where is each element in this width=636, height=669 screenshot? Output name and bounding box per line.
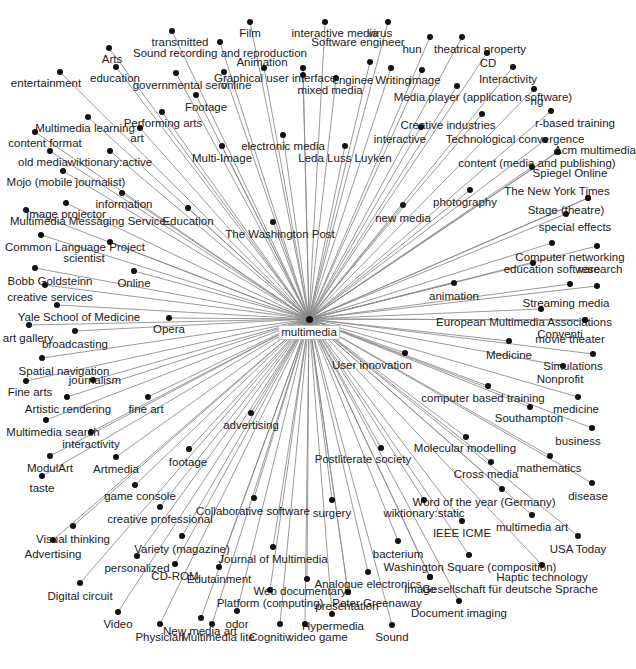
- node-dot[interactable]: [57, 69, 63, 75]
- node-label[interactable]: Online: [117, 277, 150, 290]
- node-label[interactable]: Video: [103, 618, 132, 631]
- node-dot[interactable]: [247, 19, 253, 25]
- node-dot[interactable]: [547, 453, 553, 459]
- node-dot[interactable]: [198, 615, 204, 621]
- node-dot[interactable]: [304, 576, 310, 582]
- node-label[interactable]: creative services: [7, 291, 93, 304]
- node-label[interactable]: surgery: [313, 507, 351, 520]
- node-label[interactable]: Postliterate society: [315, 453, 412, 466]
- node-dot[interactable]: [219, 143, 225, 149]
- node-label[interactable]: bacterium: [373, 548, 424, 561]
- node-label[interactable]: Multimedia Messaging Service: [10, 215, 166, 228]
- node-label[interactable]: wiktionary:static: [383, 507, 464, 520]
- node-dot[interactable]: [157, 504, 163, 510]
- node-dot[interactable]: [589, 425, 595, 431]
- node-dot[interactable]: [367, 59, 373, 65]
- node-dot[interactable]: [131, 268, 137, 274]
- node-label[interactable]: Journal of Multimedia: [218, 553, 327, 566]
- node-dot[interactable]: [157, 621, 163, 627]
- node-dot[interactable]: [234, 608, 240, 614]
- node-label[interactable]: theatrical property: [434, 43, 526, 56]
- node-dot[interactable]: [166, 315, 172, 321]
- node-dot[interactable]: [575, 533, 581, 539]
- node-dot[interactable]: [421, 497, 427, 503]
- node-dot[interactable]: [402, 350, 408, 356]
- node-dot[interactable]: [451, 280, 457, 286]
- node-label[interactable]: Mojo (mobile journalist): [7, 176, 126, 189]
- node-dot[interactable]: [185, 205, 191, 211]
- node-dot[interactable]: [400, 202, 406, 208]
- node-label[interactable]: disease: [568, 490, 608, 503]
- node-dot[interactable]: [594, 283, 600, 289]
- node-label[interactable]: Simulations: [543, 360, 602, 373]
- node-label[interactable]: IEEE ICME: [433, 527, 491, 540]
- node-label[interactable]: mathematics: [516, 462, 581, 475]
- node-dot[interactable]: [77, 580, 83, 586]
- node-dot[interactable]: [88, 429, 94, 435]
- node-label[interactable]: Film: [239, 27, 261, 40]
- node-label[interactable]: new media: [375, 212, 431, 225]
- node-dot[interactable]: [585, 195, 591, 201]
- node-dot[interactable]: [209, 621, 215, 627]
- node-label[interactable]: Medicine: [486, 349, 532, 362]
- node-label[interactable]: Cognitiv: [249, 631, 291, 644]
- node-dot[interactable]: [538, 306, 544, 312]
- node-dot[interactable]: [345, 589, 351, 595]
- node-dot[interactable]: [267, 587, 273, 593]
- node-dot[interactable]: [466, 552, 472, 558]
- node-dot[interactable]: [63, 200, 69, 206]
- node-dot[interactable]: [389, 622, 395, 628]
- node-dot[interactable]: [594, 243, 600, 249]
- node-dot[interactable]: [70, 523, 76, 529]
- node-label[interactable]: Visual thinking: [36, 533, 110, 546]
- node-label[interactable]: fine art: [128, 403, 163, 416]
- node-label[interactable]: special effects: [539, 221, 612, 234]
- node-label[interactable]: Creative industries: [400, 119, 495, 132]
- node-label[interactable]: scientist: [63, 252, 105, 265]
- node-dot[interactable]: [60, 168, 66, 174]
- node-dot[interactable]: [173, 70, 179, 76]
- node-label[interactable]: wiktionary:active: [68, 156, 152, 169]
- node-dot[interactable]: [567, 281, 573, 287]
- node-dot[interactable]: [54, 302, 60, 308]
- node-label[interactable]: Sound: [375, 631, 408, 644]
- node-dot[interactable]: [216, 564, 222, 570]
- node-label[interactable]: Collaborative software: [196, 505, 310, 518]
- node-dot[interactable]: [23, 378, 29, 384]
- node-dot[interactable]: [479, 111, 485, 117]
- node-dot[interactable]: [270, 219, 276, 225]
- node-label[interactable]: education software: [504, 263, 601, 276]
- node-label[interactable]: Animation: [236, 56, 287, 69]
- node-dot[interactable]: [418, 124, 424, 130]
- node-dot[interactable]: [427, 34, 433, 40]
- node-label[interactable]: ng: [531, 95, 544, 108]
- node-dot[interactable]: [43, 417, 49, 423]
- node-label[interactable]: interactivity: [62, 438, 120, 451]
- node-dot[interactable]: [589, 480, 595, 486]
- node-label[interactable]: Bobb Goldsteinn: [7, 275, 92, 288]
- node-dot[interactable]: [26, 322, 32, 328]
- node-dot[interactable]: [38, 232, 44, 238]
- node-dot[interactable]: [113, 454, 119, 460]
- node-label[interactable]: Footage: [185, 101, 227, 114]
- node-dot[interactable]: [548, 108, 554, 114]
- node-dot[interactable]: [419, 67, 425, 73]
- node-label[interactable]: Gesellschaft für deutsche Sprache: [422, 583, 598, 596]
- node-label[interactable]: computer based training: [421, 392, 544, 405]
- node-label[interactable]: old media: [18, 156, 68, 169]
- node-label[interactable]: Interactivity: [479, 73, 537, 86]
- node-label[interactable]: Digital circuit: [47, 590, 112, 603]
- node-dot[interactable]: [248, 410, 254, 416]
- node-dot[interactable]: [106, 45, 112, 51]
- node-dot[interactable]: [427, 574, 433, 580]
- node-dot[interactable]: [47, 453, 53, 459]
- node-dot[interactable]: [549, 240, 555, 246]
- node-label[interactable]: Multimedia lite: [181, 631, 255, 644]
- node-dot[interactable]: [107, 239, 113, 245]
- node-dot[interactable]: [510, 64, 516, 70]
- node-dot[interactable]: [485, 383, 491, 389]
- node-label[interactable]: interactive: [374, 133, 426, 146]
- node-label[interactable]: Media player (application software): [394, 91, 572, 104]
- node-label[interactable]: Spiegel Online: [533, 167, 608, 180]
- node-label[interactable]: Yale School of Medicine: [18, 311, 141, 324]
